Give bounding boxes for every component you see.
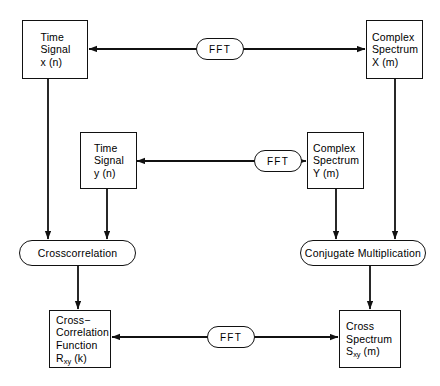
cs-line-3-subscript: xy [353, 350, 360, 359]
ccf-line-1: Cross− [56, 314, 90, 326]
node-crosscorrelation-label: Crosscorrelation [38, 247, 118, 259]
node-complex-spectrum-x[interactable]: Complex Spectrum X (m) [366, 20, 423, 79]
flow-diagram-canvas: Time Signal x (n) Complex Spectrum X (m)… [0, 0, 440, 386]
operator-fft-bottom[interactable]: FFT [207, 326, 255, 348]
operator-fft-middle-label: FFT [267, 156, 289, 167]
node-crosscorrelation[interactable]: Crosscorrelation [19, 240, 136, 266]
node-cross-correlation-function-label: Cross−CorrelationFunctionRxy (k) [55, 314, 109, 364]
node-cross-correlation-function[interactable]: Cross−CorrelationFunctionRxy (k) [49, 310, 111, 368]
node-complex-spectrum-y-label: Complex Spectrum Y (m) [312, 142, 359, 180]
node-cross-spectrum[interactable]: CrossSpectrumSxy (m) [339, 310, 401, 368]
node-conjugate-multiplication-label: Conjugate Multiplication [305, 247, 421, 259]
node-cross-spectrum-label: CrossSpectrumSxy (m) [345, 320, 392, 358]
operator-fft-middle[interactable]: FFT [254, 150, 302, 172]
cs-line-3-tail: (m) [361, 345, 380, 357]
node-complex-spectrum-y[interactable]: Complex Spectrum Y (m) [307, 132, 364, 189]
node-time-signal-y-label: Time Signal y (n) [93, 142, 124, 180]
node-complex-spectrum-x-label: Complex Spectrum X (m) [371, 31, 418, 69]
ccf-line-2: Correlation [56, 326, 109, 338]
operator-fft-top[interactable]: FFT [196, 38, 244, 60]
node-time-signal-x[interactable]: Time Signal x (n) [22, 20, 88, 79]
ccf-line-4-base: R [56, 352, 64, 364]
node-time-signal-x-label: Time Signal x (n) [39, 31, 70, 69]
ccf-line-3: Function [56, 339, 97, 351]
node-time-signal-y[interactable]: Time Signal y (n) [80, 132, 137, 189]
operator-fft-bottom-label: FFT [220, 332, 242, 343]
node-conjugate-multiplication[interactable]: Conjugate Multiplication [300, 240, 426, 266]
ccf-line-4-tail: (k) [71, 352, 87, 364]
operator-fft-top-label: FFT [209, 44, 231, 55]
cs-line-2: Spectrum [346, 333, 392, 345]
cs-line-1: Cross [346, 320, 374, 332]
